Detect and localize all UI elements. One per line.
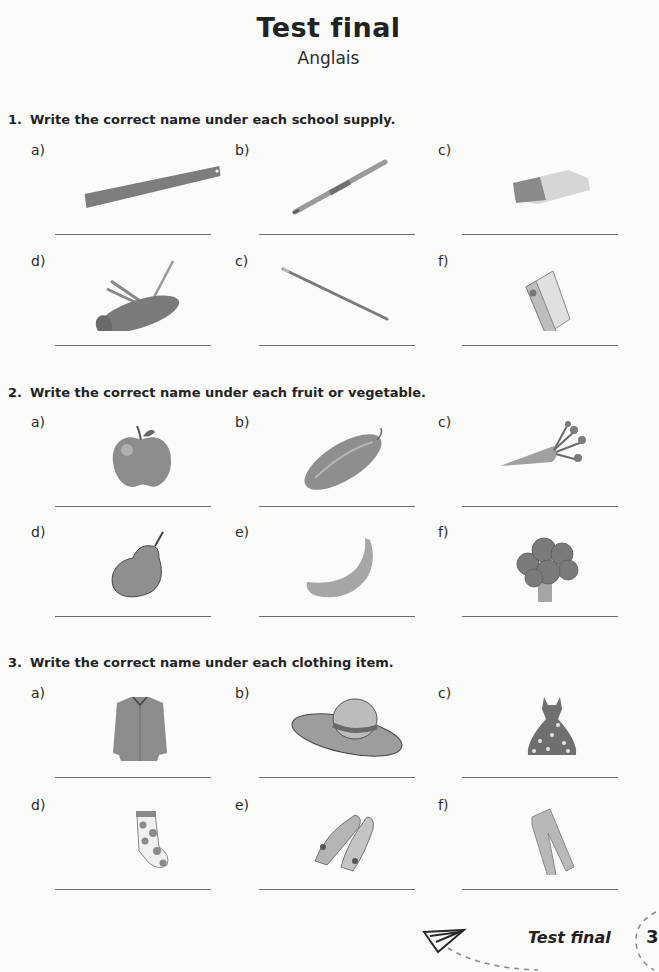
exercise-item: f) — [438, 253, 638, 363]
item-label: b) — [235, 142, 249, 158]
item-label: f) — [438, 797, 448, 813]
item-label: d) — [31, 253, 45, 269]
section-instruction: Write the correct name under each fruit … — [30, 385, 426, 400]
item-label: c) — [438, 414, 451, 430]
answer-line[interactable] — [55, 889, 211, 890]
exercise-item: c) — [438, 142, 638, 252]
exercise-item: b) — [235, 685, 435, 795]
pear-icon — [71, 530, 221, 602]
exercise-item: f) — [438, 797, 638, 907]
section-instruction: Write the correct name under each school… — [30, 112, 395, 127]
item-label: d) — [31, 524, 45, 540]
answer-line[interactable] — [259, 234, 415, 235]
section-2-heading: 2.Write the correct name under each frui… — [8, 385, 426, 400]
exercise-item: a) — [31, 414, 231, 524]
hat-icon — [275, 691, 425, 763]
exercise-item: c) — [235, 253, 435, 363]
answer-line[interactable] — [259, 777, 415, 778]
exercise-item: d) — [31, 797, 231, 907]
exercise-item: e) — [235, 797, 435, 907]
item-label: b) — [235, 685, 249, 701]
answer-line[interactable] — [462, 234, 618, 235]
item-label: f) — [438, 253, 448, 269]
carrot-icon — [478, 420, 628, 492]
section-instruction: Write the correct name under each clothi… — [30, 655, 394, 670]
item-label: d) — [31, 797, 45, 813]
section-number: 3. — [8, 655, 30, 670]
exercise-item: d) — [31, 253, 231, 363]
item-label: e) — [235, 524, 249, 540]
item-label: c) — [438, 142, 451, 158]
section-number: 2. — [8, 385, 30, 400]
exercise-item: b) — [235, 142, 435, 252]
answer-line[interactable] — [259, 616, 415, 617]
dress-icon — [478, 691, 628, 763]
footer-title: Test final — [528, 928, 611, 947]
cucumber-icon — [275, 420, 425, 492]
ruler-icon — [71, 148, 221, 220]
page-title: Test final — [0, 12, 657, 43]
answer-line[interactable] — [462, 889, 618, 890]
section-number: 1. — [8, 112, 30, 127]
answer-line[interactable] — [259, 889, 415, 890]
broccoli-icon — [478, 530, 628, 602]
section-1-heading: 1.Write the correct name under each scho… — [8, 112, 395, 127]
pants-icon — [478, 803, 628, 875]
exercise-item: a) — [31, 142, 231, 252]
item-label: e) — [235, 797, 249, 813]
page-number: 3 — [646, 926, 659, 947]
answer-line[interactable] — [259, 345, 415, 346]
item-label: a) — [31, 414, 45, 430]
answer-line[interactable] — [55, 345, 211, 346]
pencil-icon — [275, 259, 425, 331]
item-label: f) — [438, 524, 448, 540]
item-label: a) — [31, 142, 45, 158]
binder-icon — [478, 259, 628, 331]
page-subtitle: Anglais — [0, 48, 657, 68]
answer-line[interactable] — [462, 616, 618, 617]
exercise-item: c) — [438, 685, 638, 795]
answer-line[interactable] — [462, 345, 618, 346]
item-label: c) — [438, 685, 451, 701]
exercise-item: f) — [438, 524, 638, 634]
pen-icon — [275, 148, 425, 220]
answer-line[interactable] — [462, 777, 618, 778]
eraser-icon — [478, 148, 628, 220]
exercise-item: e) — [235, 524, 435, 634]
banana-icon — [275, 530, 425, 602]
section-3-heading: 3.Write the correct name under each clot… — [8, 655, 394, 670]
sock-icon — [71, 803, 221, 875]
exercise-item: b) — [235, 414, 435, 524]
answer-line[interactable] — [55, 506, 211, 507]
answer-line[interactable] — [462, 506, 618, 507]
answer-line[interactable] — [55, 616, 211, 617]
answer-line[interactable] — [259, 506, 415, 507]
answer-line[interactable] — [55, 777, 211, 778]
answer-line[interactable] — [55, 234, 211, 235]
item-label: b) — [235, 414, 249, 430]
exercise-item: c) — [438, 414, 638, 524]
shoes-icon — [275, 803, 425, 875]
exercise-item: a) — [31, 685, 231, 795]
shirt-icon — [71, 691, 221, 763]
exercise-item: d) — [31, 524, 231, 634]
apple-icon — [71, 420, 221, 492]
item-label: a) — [31, 685, 45, 701]
pencil-case-icon — [71, 259, 221, 331]
item-label: c) — [235, 253, 248, 269]
